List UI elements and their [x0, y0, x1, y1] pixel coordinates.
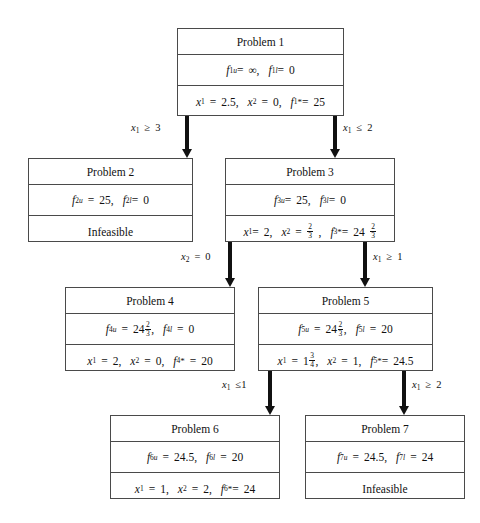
node-title: Problem 1: [178, 29, 343, 55]
branch-label-x1-ge-3: x1≥3: [131, 122, 160, 135]
node-title: Problem 6: [111, 416, 279, 442]
node-problem-1[interactable]: Problem 1 f1u=∞,f1l=0 x1=2.5,x2=0,f1*=25: [177, 28, 344, 116]
arrow-head: [399, 406, 409, 415]
arrow-stem: [333, 113, 337, 149]
branch-label-x2-eq-0: x2=0: [181, 251, 211, 264]
node-bounds: f6u=24.5,f6l=20: [111, 442, 279, 473]
node-bounds: f1u=∞,f1l=0: [178, 55, 343, 86]
arrow-head: [360, 278, 370, 287]
node-bounds: f5u=2423,f5l=20: [259, 314, 432, 345]
node-title: Problem 2: [29, 159, 192, 185]
arrow-head: [225, 278, 235, 287]
branch-and-bound-diagram: x1≥3 x1≤2 x2=0 x1≥1 x1≤1 x1≥2 Problem 1 …: [0, 0, 480, 523]
arrow-head: [265, 406, 275, 415]
node-title: Problem 7: [306, 416, 464, 442]
node-title: Problem 3: [226, 159, 394, 185]
node-solution: x1=1,x2=2,f6*=24: [111, 473, 279, 504]
arrow-head: [330, 149, 340, 158]
arrow-p1-to-p2: [185, 113, 189, 158]
node-problem-2[interactable]: Problem 2 f2u=25,f2l=0 Infeasible: [28, 158, 193, 242]
node-problem-3[interactable]: Problem 3 f3u=25,f3l=0 x1=2,x2=23,f3*=24…: [225, 158, 395, 242]
arrow-stem: [185, 113, 189, 149]
arrow-head: [182, 149, 192, 158]
node-solution: x1=2,x2=0,f4*=20: [66, 345, 234, 376]
node-problem-6[interactable]: Problem 6 f6u=24.5,f6l=20 x1=1,x2=2,f6*=…: [110, 415, 280, 499]
arrow-p3-to-p4: [228, 242, 232, 287]
arrow-p1-to-p3: [333, 113, 337, 158]
node-title: Problem 5: [259, 288, 432, 314]
node-problem-5[interactable]: Problem 5 f5u=2423,f5l=20 x1=134,x2=1,f5…: [258, 287, 433, 371]
branch-label-x1-ge-1: x1≥1: [373, 251, 402, 264]
arrow-p3-to-p5: [363, 242, 367, 287]
node-problem-7[interactable]: Problem 7 f7u=24.5,f7l=24 Infeasible: [305, 415, 465, 499]
node-solution: x1=2.5,x2=0,f1*=25: [178, 86, 343, 117]
node-bounds: f7u=24.5,f7l=24: [306, 442, 464, 473]
node-status: Infeasible: [29, 216, 192, 247]
arrow-p5-to-p6: [268, 370, 272, 415]
branch-label-x1-ge-2: x1≥2: [412, 379, 441, 392]
node-bounds: f3u=25,f3l=0: [226, 185, 394, 216]
branch-label-x1-le-2: x1≤2: [343, 122, 372, 135]
node-problem-4[interactable]: Problem 4 f4u=2423,f4l=0 x1=2,x2=0,f4*=2…: [65, 287, 235, 371]
branch-label-x1-le-1: x1≤1: [222, 379, 246, 392]
node-solution: x1=2,x2=23,f3*=2423: [226, 216, 394, 247]
arrow-stem: [363, 242, 367, 278]
node-solution: x1=134,x2=1,f5*=24.5: [259, 345, 432, 376]
node-bounds: f4u=2423,f4l=0: [66, 314, 234, 345]
arrow-stem: [228, 242, 232, 278]
node-status: Infeasible: [306, 473, 464, 504]
node-bounds: f2u=25,f2l=0: [29, 185, 192, 216]
node-title: Problem 4: [66, 288, 234, 314]
arrow-p5-to-p7: [402, 370, 406, 415]
